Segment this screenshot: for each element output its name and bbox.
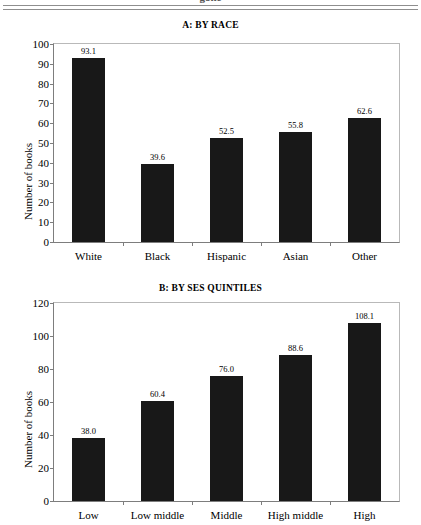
chart-b-y-axis-label: Number of books [22,391,34,468]
chart-b-y-tick-mark [50,303,54,304]
chart-a-x-tick-mark [261,242,262,246]
chart-b-bar [72,438,104,501]
chart-a-bar [72,58,104,242]
chart-a-y-tick-mark [50,44,54,45]
chart-b-x-tick-mark [123,501,124,505]
chart-a-bar [348,118,380,242]
chart-a-y-tick-mark [50,222,54,223]
chart-b-bar-value-label: 76.0 [219,364,234,374]
chart-a-plot-area: 010203040506070809010093.1White39.6Black… [53,43,400,243]
chart-a-y-tick-mark [50,163,54,164]
chart-b-y-tick-label: 60 [38,396,49,408]
chart-b-title: B: BY SES QUINTILES [0,283,421,293]
chart-a-bar [210,138,242,242]
chart-a-x-category-label: Black [145,250,171,262]
chart-b-x-tick-mark [330,501,331,505]
chart-a-y-tick-label: 40 [38,157,49,169]
chart-a-y-tick-mark [50,143,54,144]
chart-b-x-tick-mark [261,501,262,505]
chart-a-y-axis-label: Number of books [22,143,34,220]
chart-b-y-tick-label: 100 [33,330,50,342]
chart-b-bar-value-label: 88.6 [288,343,303,353]
chart-b-y-tick-mark [50,369,54,370]
chart-a-x-category-label: Other [352,250,377,262]
chart-a-y-tick-label: 50 [38,137,49,149]
chart-b-y-tick-label: 0 [44,495,50,507]
chart-b-y-tick-mark [50,435,54,436]
chart-b-x-tick-mark [192,501,193,505]
running-head-text: gone [0,0,421,3]
chart-a-x-tick-mark [192,242,193,246]
chart-a-y-tick-label: 80 [38,78,49,90]
chart-b-y-tick-mark [50,501,54,502]
chart-a-y-tick-label: 30 [38,177,49,189]
chart-b-x-category-label: Low [78,509,98,521]
header-rule-bottom [3,9,418,10]
chart-a-y-tick-label: 70 [38,97,49,109]
chart-a-bar [141,164,173,242]
chart-b-plot-area: 02040608010012038.0Low60.4Low middle76.0… [53,302,400,502]
chart-a-x-category-label: Hispanic [207,250,246,262]
chart-a-bar-value-label: 93.1 [81,46,96,56]
chart-a-y-tick-label: 100 [33,38,50,50]
chart-b-bar [141,401,173,501]
chart-a-bar-value-label: 52.5 [219,126,234,136]
chart-b-bar [348,323,380,501]
chart-b-bar-value-label: 38.0 [81,426,96,436]
chart-a-x-tick-mark [123,242,124,246]
chart-a-y-tick-mark [50,202,54,203]
chart-a-bar [279,132,311,242]
header-rule-top [3,5,418,6]
chart-a-y-tick-mark [50,103,54,104]
chart-a-x-category-label: White [75,250,102,262]
chart-panel-a: A: BY RACE Number of books 0102030405060… [0,20,421,278]
chart-b-bar-value-label: 60.4 [150,389,165,399]
chart-b-x-category-label: High middle [268,509,323,521]
chart-b-y-tick-mark [50,402,54,403]
chart-a-y-tick-label: 20 [38,196,49,208]
chart-a-bar-value-label: 39.6 [150,152,165,162]
chart-a-title: A: BY RACE [0,20,421,30]
chart-b-y-tick-label: 80 [38,363,49,375]
chart-a-y-tick-label: 90 [38,58,49,70]
chart-b-y-tick-label: 120 [33,297,50,309]
chart-b-x-category-label: Middle [211,509,243,521]
chart-a-bar-value-label: 62.6 [357,106,372,116]
chart-a-x-category-label: Asian [283,250,309,262]
chart-b-y-tick-label: 20 [38,462,49,474]
chart-b-x-category-label: High [354,509,376,521]
chart-a-y-tick-label: 0 [44,236,50,248]
chart-b-bar [210,376,242,501]
chart-b-bar [279,355,311,501]
chart-a-y-tick-mark [50,123,54,124]
chart-a-y-tick-label: 60 [38,117,49,129]
chart-b-y-tick-mark [50,336,54,337]
chart-panel-b: B: BY SES QUINTILES Number of books 0204… [0,283,421,525]
chart-b-y-tick-label: 40 [38,429,49,441]
chart-a-y-tick-mark [50,64,54,65]
chart-a-bar-value-label: 55.8 [288,120,303,130]
chart-b-y-tick-mark [50,468,54,469]
page-running-header: gone [0,0,421,14]
chart-a-x-tick-mark [330,242,331,246]
chart-a-y-tick-mark [50,242,54,243]
chart-a-y-tick-mark [50,84,54,85]
chart-b-x-category-label: Low middle [131,509,184,521]
chart-b-bar-value-label: 108.1 [355,311,374,321]
chart-a-y-tick-mark [50,183,54,184]
chart-a-y-tick-label: 10 [38,216,49,228]
